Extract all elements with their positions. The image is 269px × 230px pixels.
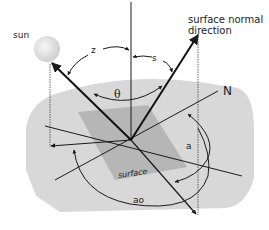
- sun-label: sun: [13, 31, 29, 40]
- surface-normal-label-line1: surface normal: [188, 14, 263, 25]
- zenith-angle-arc-right: [103, 47, 129, 50]
- incidence-angle-label: θ: [114, 89, 121, 100]
- tilt-angle-label: s: [152, 54, 157, 63]
- zenith-angle-label: z: [91, 46, 96, 55]
- solar-azimuth-label: ao: [133, 196, 144, 205]
- surface-azimuth-label: a: [186, 142, 192, 151]
- tilt-angle-arc-left: [133, 56, 152, 57]
- tilt-angle-arc-right: [163, 61, 172, 72]
- sun: [34, 36, 60, 62]
- zenith-angle-arc-left: [68, 55, 88, 75]
- surface-normal-label-line2: direction: [188, 25, 232, 36]
- north-label: N: [223, 85, 232, 97]
